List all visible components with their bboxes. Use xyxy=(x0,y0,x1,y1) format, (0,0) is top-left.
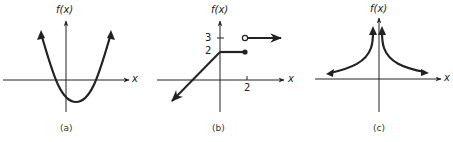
graph-c-right-branch xyxy=(382,32,425,72)
figure-canvas xyxy=(0,0,453,142)
graph-b-open-dot xyxy=(242,35,247,40)
graph-c-left-branch xyxy=(330,32,373,73)
graph-a-arrow-right-icon xyxy=(107,30,115,40)
graph-c-x-label: x xyxy=(444,73,450,83)
graph-b-x-tick-2: 2 xyxy=(244,83,250,93)
graph-c-arrow-right-out-icon xyxy=(421,69,429,76)
graph-c-arrow-left-out-icon xyxy=(326,69,334,77)
graph-a-parabola xyxy=(42,37,110,102)
graph-a-arrow-left-icon xyxy=(37,30,45,40)
graph-a xyxy=(3,21,129,112)
graph-b-y-label: f(x) xyxy=(211,5,228,15)
graph-c-arrow-left-up-icon xyxy=(369,26,377,35)
graph-b-ramp xyxy=(172,52,220,101)
graph-a-x-label: x xyxy=(132,74,138,84)
graph-b xyxy=(157,21,284,112)
graph-c-y-label: f(x) xyxy=(370,4,387,14)
graph-b-closed-dot xyxy=(242,49,247,54)
graph-b-y-tick-3: 3 xyxy=(205,33,211,43)
graph-a-caption: (a) xyxy=(60,124,73,133)
graph-c xyxy=(315,18,441,112)
graph-a-y-label: f(x) xyxy=(56,5,73,15)
graph-b-y-tick-2: 2 xyxy=(205,46,211,56)
graph-c-caption: (c) xyxy=(373,124,385,133)
graph-b-caption: (b) xyxy=(212,124,225,133)
graph-b-x-label: x xyxy=(288,74,294,84)
